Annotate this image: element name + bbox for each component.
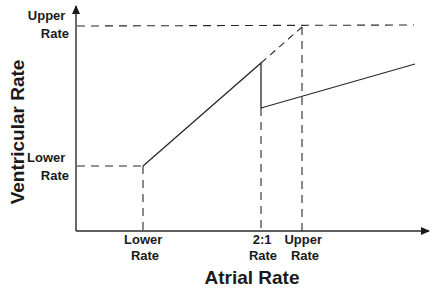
y-tick-lower-rate: Lower Rate [27, 150, 69, 183]
projected-tracking-line [261, 27, 302, 63]
x-axis-title: Atrial Rate [204, 267, 299, 288]
x-tick-two-to-one-rate: 2:1 Rate [249, 232, 277, 263]
upper-rate-guide [77, 25, 414, 26]
x-tick-upper-rate: Upper Rate [284, 232, 325, 263]
x-tick-lower-rate: Lower Rate [124, 232, 166, 263]
y-tick-upper-rate: Upper Rate [28, 8, 69, 41]
y-axis-title: Ventricular Rate [7, 60, 28, 205]
rate-diagram: Upper Rate Lower Rate Lower Rate 2:1 Rat… [0, 0, 435, 290]
ventricular-response-curve [143, 63, 415, 166]
